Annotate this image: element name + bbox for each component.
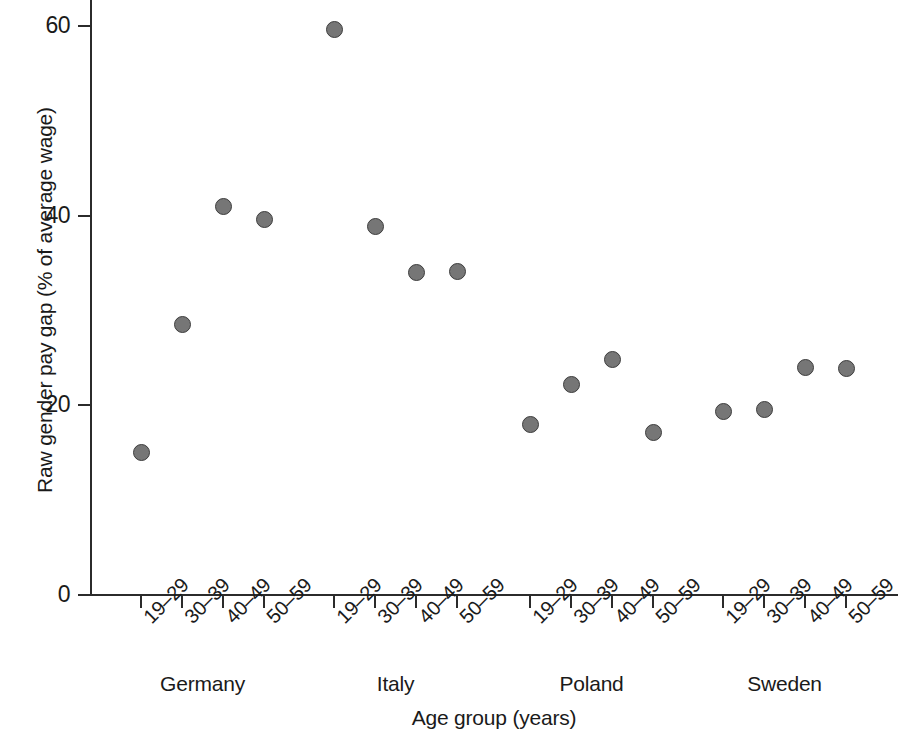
data-point-marker (604, 351, 621, 368)
x-axis-category-label: 40–49 (610, 574, 665, 629)
x-axis-tick (722, 596, 724, 608)
data-point-marker (367, 218, 384, 235)
x-axis-category-label: 30–39 (180, 574, 235, 629)
x-axis-tick (140, 596, 142, 608)
x-axis-category-label: 40–49 (221, 574, 276, 629)
y-axis-tick-label: 20 (6, 391, 70, 418)
x-axis-category-label: 30–39 (373, 574, 428, 629)
x-axis-category-label: 40–49 (414, 574, 469, 629)
data-point-marker (449, 263, 466, 280)
data-point-marker (326, 21, 343, 38)
x-axis-tick (529, 596, 531, 608)
data-point-marker (797, 359, 814, 376)
y-axis-tick-label: 60 (6, 12, 70, 39)
data-point-marker (715, 403, 732, 420)
data-point-marker (256, 211, 273, 228)
y-axis-tick (78, 404, 90, 406)
scatter-plot-figure: Raw gender pay gap (% of average wage) 0… (0, 0, 898, 743)
y-axis-tick (78, 25, 90, 27)
x-axis-category-label: 30–39 (762, 574, 817, 629)
x-axis-category-label: 30–39 (569, 574, 624, 629)
data-point-marker (408, 264, 425, 281)
data-point-marker (838, 360, 855, 377)
x-axis-tick (333, 596, 335, 608)
y-axis-tick-label: 0 (6, 581, 70, 608)
x-axis-category-label: 19–29 (139, 574, 194, 629)
x-axis-category-label: 50–59 (844, 574, 898, 629)
x-axis-category-label: 19–29 (528, 574, 583, 629)
data-point-marker (522, 416, 539, 433)
data-point-marker (563, 376, 580, 393)
x-axis-group-label: Sweden (747, 672, 822, 696)
data-point-marker (756, 401, 773, 418)
x-axis-category-label: 40–49 (803, 574, 858, 629)
x-axis-group-label: Italy (377, 672, 415, 696)
x-axis-category-label: 50–59 (651, 574, 706, 629)
x-axis-group-label: Germany (160, 672, 245, 696)
data-point-marker (645, 424, 662, 441)
data-point-marker (174, 316, 191, 333)
x-axis-category-label: 19–29 (332, 574, 387, 629)
data-point-marker (133, 444, 150, 461)
x-axis-category-label: 50–59 (262, 574, 317, 629)
x-axis-category-label: 50–59 (455, 574, 510, 629)
y-axis-title: Raw gender pay gap (% of average wage) (28, 0, 62, 600)
y-axis-tick-label: 40 (6, 202, 70, 229)
y-axis-tick (78, 215, 90, 217)
x-axis-group-label: Poland (559, 672, 623, 696)
x-axis-category-label: 19–29 (721, 574, 776, 629)
x-axis-title: Age group (years) (90, 706, 898, 730)
y-axis-line (90, 0, 92, 596)
y-axis-tick (78, 594, 90, 596)
data-point-marker (215, 198, 232, 215)
